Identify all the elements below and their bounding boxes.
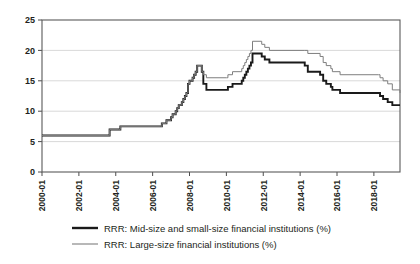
y-tick-label-15: 15 (25, 76, 35, 86)
x-tick-label-2000-01: 2000-01 (37, 180, 47, 211)
x-axis-labels-group: 2000-012002-012004-012006-012008-012010-… (37, 180, 379, 211)
plot-border (42, 20, 400, 172)
y-tick-label-25: 25 (25, 15, 35, 25)
rrr-line-chart: 0510152025 2000-012002-012004-012006-012… (0, 0, 420, 264)
series-lines-group (42, 41, 400, 135)
y-axis-labels-group: 0510152025 (25, 15, 35, 177)
series-line-mid-small (42, 53, 400, 135)
y-axis-ticks-group (38, 20, 42, 172)
legend-label-large: RRR: Large-size financial institutions (… (104, 239, 277, 250)
chart-container: 0510152025 2000-012002-012004-012006-012… (0, 0, 420, 264)
legend-label-mid-small: RRR: Mid-size and small-size financial i… (104, 223, 331, 234)
x-tick-label-2010-01: 2010-01 (222, 180, 232, 211)
x-tick-label-2018-01: 2018-01 (369, 180, 379, 211)
x-tick-label-2004-01: 2004-01 (111, 180, 121, 211)
y-tick-label-0: 0 (30, 167, 35, 177)
x-tick-label-2016-01: 2016-01 (332, 180, 342, 211)
x-tick-label-2008-01: 2008-01 (185, 180, 195, 211)
series-line-large (42, 41, 400, 135)
x-tick-label-2014-01: 2014-01 (296, 180, 306, 211)
y-tick-label-10: 10 (25, 106, 35, 116)
x-tick-label-2006-01: 2006-01 (148, 180, 158, 211)
y-tick-label-20: 20 (25, 46, 35, 56)
plot-frame (42, 20, 400, 172)
x-axis-ticks-group (42, 172, 374, 176)
gridlines-group (42, 50, 400, 141)
x-tick-label-2012-01: 2012-01 (259, 180, 269, 211)
legend: RRR: Mid-size and small-size financial i… (72, 223, 331, 250)
x-tick-label-2002-01: 2002-01 (74, 180, 84, 211)
y-tick-label-5: 5 (30, 137, 35, 147)
